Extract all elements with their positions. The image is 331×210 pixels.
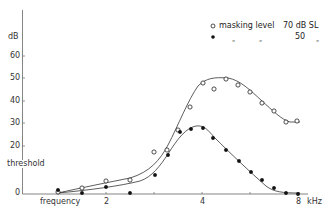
data-point-filled xyxy=(296,192,299,195)
data-point-open xyxy=(201,81,205,85)
data-point-open xyxy=(188,105,192,109)
data-point-filled xyxy=(128,191,131,194)
curve-70db xyxy=(58,78,300,193)
series-70db-points xyxy=(56,77,299,194)
data-point-filled xyxy=(153,173,156,176)
data-point-filled xyxy=(284,191,287,194)
data-point-filled xyxy=(56,188,59,191)
legend-50db-value: 50 xyxy=(295,33,305,41)
data-point-filled xyxy=(189,127,192,130)
data-point-filled xyxy=(237,159,240,162)
y-unit-label: dB xyxy=(8,33,19,41)
data-point-filled xyxy=(249,170,252,173)
y-tick-60: 60 xyxy=(10,52,20,60)
y-tick-40: 40 xyxy=(10,97,20,105)
legend-70db-value: 70 dB SL xyxy=(283,21,318,30)
legend-filled-circle-icon xyxy=(211,35,215,39)
data-point-filled xyxy=(201,126,204,129)
data-point-open xyxy=(212,87,216,91)
y-tick-20: 20 xyxy=(10,142,20,150)
data-point-open xyxy=(295,119,299,123)
data-point-filled xyxy=(211,136,214,139)
data-point-open xyxy=(272,109,276,113)
data-point-open xyxy=(284,120,288,124)
x-unit-label: kHz xyxy=(307,198,322,206)
data-point-filled xyxy=(178,130,181,133)
data-point-open xyxy=(260,101,264,105)
data-point-filled xyxy=(80,191,83,194)
data-point-open xyxy=(248,90,252,94)
x-tick-2: 2 xyxy=(104,198,109,206)
x-tick-4: 4 xyxy=(200,198,205,206)
data-point-open xyxy=(128,178,132,182)
legend-entry-70db: masking level 70 dB SL xyxy=(219,22,318,30)
curve-50db xyxy=(58,126,300,193)
data-point-filled xyxy=(166,153,169,156)
y-axis-title: threshold xyxy=(6,160,46,168)
legend-50db-ditto-1: „ xyxy=(232,36,235,42)
legend-70db-text: masking level xyxy=(219,21,274,30)
data-point-open xyxy=(104,179,108,183)
data-point-filled xyxy=(260,178,263,181)
y-tick-30: 30 xyxy=(10,119,20,127)
y-tick-50: 50 xyxy=(10,74,20,82)
data-point-filled xyxy=(224,148,227,151)
legend-50db-ditto-3: „ xyxy=(316,36,319,42)
data-point-open xyxy=(80,186,84,190)
data-point-open xyxy=(165,148,169,152)
data-point-open xyxy=(152,150,156,154)
data-point-open xyxy=(224,77,228,81)
y-tick-0: 0 xyxy=(15,189,20,197)
data-point-open xyxy=(236,83,240,87)
x-axis-title: frequency xyxy=(40,198,80,206)
data-point-filled xyxy=(104,185,107,188)
chart-canvas xyxy=(0,0,331,210)
legend-open-circle-icon xyxy=(211,24,215,28)
x-tick-8: 8 xyxy=(296,198,301,206)
legend-50db-ditto-2: „ xyxy=(259,36,262,42)
data-point-filled xyxy=(272,186,275,189)
